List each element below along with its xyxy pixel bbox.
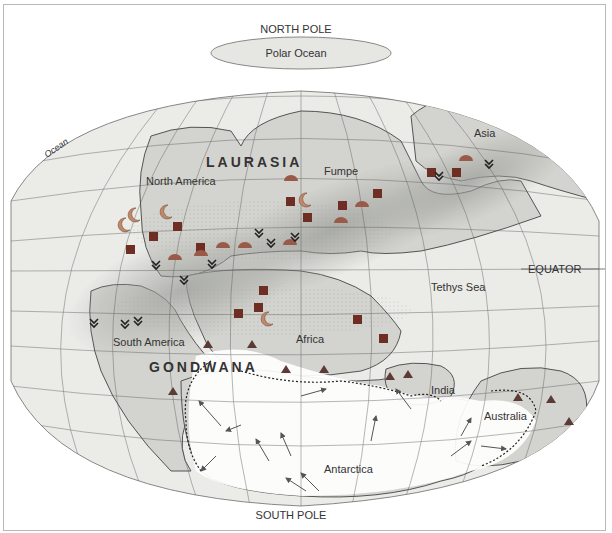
south-pole-label: SOUTH POLE xyxy=(256,509,327,521)
north-america-label: North America xyxy=(146,175,217,187)
north-pole-label: NORTH POLE xyxy=(260,23,331,35)
south-america-label: South America xyxy=(113,336,185,348)
pangaea-map: NORTH POLE Polar Ocean Ocean LAURASIA Fu… xyxy=(4,5,605,530)
polar-ocean-label: Polar Ocean xyxy=(265,47,326,59)
africa-label: Africa xyxy=(296,333,325,345)
australia-label: Australia xyxy=(484,410,528,422)
equator-label: EQUATOR xyxy=(528,263,581,275)
india-label: India xyxy=(431,384,456,396)
asia-label: Asia xyxy=(474,127,496,139)
gondwana-label: GONDWANA xyxy=(149,359,258,375)
antarctica-label: Antarctica xyxy=(324,463,374,475)
tethys-sea-label: Tethys Sea xyxy=(431,281,486,293)
europe-label: Fumpe xyxy=(324,165,358,177)
laurasia-label: LAURASIA xyxy=(206,154,302,170)
map-frame: NORTH POLE Polar Ocean Ocean LAURASIA Fu… xyxy=(3,4,606,531)
